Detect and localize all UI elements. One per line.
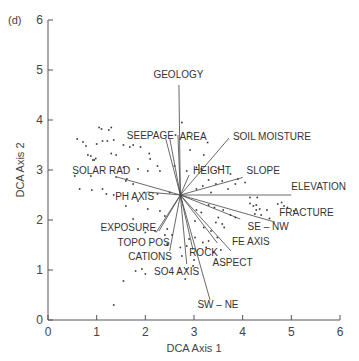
sample-point <box>194 237 196 239</box>
sample-point <box>259 208 261 210</box>
sample-point <box>221 180 223 182</box>
sample-point <box>227 188 229 190</box>
vector-label: SEEPAGE <box>127 130 174 141</box>
vector-line <box>180 195 274 222</box>
sample-point <box>110 127 112 129</box>
vector-labels: GEOLOGYSEEPAGEAREASOIL MOISTUREHEIGHTSLO… <box>72 69 346 310</box>
vector-label: CATIONS <box>128 251 172 262</box>
sample-point <box>91 189 93 191</box>
x-axis-title: DCA Axis 1 <box>166 342 221 354</box>
sample-point <box>180 247 182 249</box>
sample-point <box>207 142 209 144</box>
sample-point <box>203 154 205 156</box>
sample-point <box>147 208 149 210</box>
sample-point <box>281 202 283 204</box>
sample-point <box>98 127 100 129</box>
sample-point <box>132 183 134 185</box>
dca-biplot-chart: (d) 01234560123456 GEOLOGYSEEPAGEAREASOI… <box>0 0 359 361</box>
sample-point <box>90 155 92 157</box>
vector-label: ELEVATION <box>291 181 346 192</box>
sample-point <box>135 270 137 272</box>
sample-point <box>159 210 161 212</box>
sample-point <box>85 145 87 147</box>
sample-point <box>106 193 108 195</box>
sample-point <box>123 280 125 282</box>
y-tick-label: 6 <box>36 13 43 27</box>
y-tick-label: 0 <box>36 313 43 327</box>
x-tick-label: 2 <box>142 325 149 339</box>
sample-point <box>123 144 125 146</box>
sample-point <box>132 144 134 146</box>
x-tick-label: 6 <box>337 325 344 339</box>
vector-label: FRACTURE <box>279 207 334 218</box>
sample-point <box>115 154 117 156</box>
sample-point <box>266 209 268 211</box>
sample-point <box>113 139 115 141</box>
sample-point <box>181 122 183 124</box>
y-tick-label: 5 <box>36 63 43 77</box>
sample-point <box>203 227 205 229</box>
sample-point <box>102 140 104 142</box>
sample-point <box>220 249 222 251</box>
sample-point <box>95 158 97 160</box>
sample-point <box>196 188 198 190</box>
vector-label: FE AXIS <box>232 236 270 247</box>
y-axis-title: DCA Axis 2 <box>14 142 26 197</box>
sample-point <box>210 192 212 194</box>
sample-point <box>87 154 89 156</box>
sample-point <box>223 227 225 229</box>
sample-point <box>256 197 258 199</box>
sample-point <box>249 203 251 205</box>
sample-point <box>149 158 151 160</box>
x-tick-label: 5 <box>288 325 295 339</box>
sample-point <box>129 146 131 148</box>
vector-label: SLOPE <box>247 165 281 176</box>
y-tick-label: 2 <box>36 213 43 227</box>
sample-point <box>101 128 103 130</box>
vector-label: SE – NW <box>248 221 290 232</box>
sample-point <box>235 183 237 185</box>
sample-point <box>102 188 104 190</box>
y-tick-label: 3 <box>36 163 43 177</box>
sample-point <box>186 245 188 247</box>
sample-point <box>255 209 257 211</box>
sample-point <box>110 153 112 155</box>
sample-point <box>196 209 198 211</box>
sample-point <box>181 255 183 257</box>
sample-point <box>82 141 84 143</box>
sample-point <box>107 140 109 142</box>
sample-point <box>269 218 271 220</box>
sample-point <box>145 273 147 275</box>
sample-point <box>260 214 262 216</box>
sample-point <box>115 176 117 178</box>
sample-point <box>186 170 188 172</box>
sample-point <box>193 259 195 261</box>
sample-point <box>92 159 94 161</box>
sample-point <box>166 228 168 230</box>
sample-point <box>277 203 279 205</box>
sample-point <box>140 146 142 148</box>
sample-point <box>244 182 246 184</box>
sample-point <box>208 204 210 206</box>
sample-point <box>113 304 115 306</box>
vector-label: EXPOSURE <box>101 222 157 233</box>
sample-point <box>137 168 139 170</box>
sample-point <box>175 134 177 136</box>
sample-point <box>222 209 224 211</box>
sample-point <box>148 153 150 155</box>
vector-label: TOPO POS <box>118 237 170 248</box>
vector-label: SW – NE <box>197 299 238 310</box>
vector-label: AREA <box>179 131 207 142</box>
sample-point <box>255 204 257 206</box>
sample-point <box>208 240 210 242</box>
sample-point <box>96 143 98 145</box>
sample-point <box>141 268 143 270</box>
sample-point <box>164 215 166 217</box>
vector-label: PH AXIS <box>115 191 154 202</box>
y-tick-label: 4 <box>36 113 43 127</box>
sample-point <box>215 222 217 224</box>
sample-point <box>253 205 255 207</box>
sample-point <box>218 217 220 219</box>
sample-point <box>249 197 251 199</box>
sample-point <box>202 242 204 244</box>
